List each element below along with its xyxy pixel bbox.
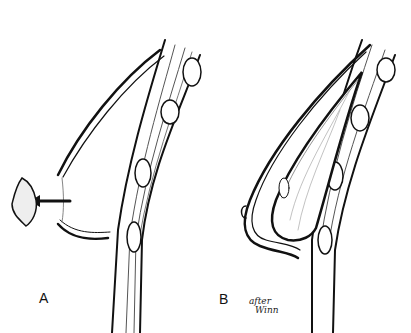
illustration (0, 0, 411, 333)
panel-b-drawing (242, 40, 396, 333)
panel-label-b: B (219, 291, 228, 307)
artist-signature: after Winn (249, 297, 279, 315)
signature-line-2: Winn (249, 306, 279, 315)
panel-label-a: A (39, 290, 48, 306)
